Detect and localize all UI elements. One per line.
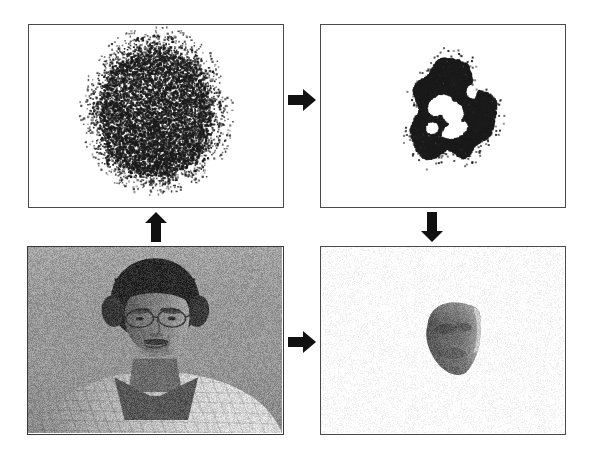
arrow-right-icon (286, 328, 318, 356)
face-model-canvas (321, 247, 564, 433)
photograph-canvas (28, 247, 282, 433)
arrow-down-icon (418, 210, 446, 244)
input-photograph (28, 247, 283, 434)
arrow-up-icon (142, 210, 170, 244)
panel-input-photograph (27, 246, 284, 435)
segmented-point-cloud-canvas (321, 25, 564, 206)
panel-textured-face-model (320, 246, 566, 435)
raw-point-cloud-plot (29, 25, 283, 207)
panel-segmented-point-cloud (320, 24, 566, 208)
panel-raw-point-cloud (28, 24, 284, 208)
arrow-right-icon (286, 86, 318, 114)
textured-face-model-view (321, 247, 565, 434)
raw-point-cloud-canvas (29, 25, 282, 206)
segmented-point-cloud-plot (321, 25, 565, 207)
figure-canvas (0, 0, 591, 458)
